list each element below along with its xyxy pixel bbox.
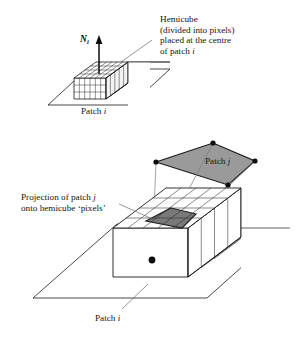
normal-vector-subscript: i: [87, 38, 89, 45]
patch-index-i: i: [104, 106, 107, 116]
patch-index-i: i: [118, 313, 121, 323]
patch-i-bottom-label: Patch i: [95, 313, 120, 324]
hemicube-label-line4: of patch i: [160, 46, 195, 56]
upper-leader-line: [121, 40, 152, 62]
hemicube-label-line3: placed at the centre: [160, 35, 231, 45]
normal-vector-label: Ni: [80, 34, 89, 45]
hemicube-label-line2: (divided into pixels): [160, 25, 235, 35]
lower-diagram: [33, 140, 304, 309]
hemicube-label-line1: Hemicube: [160, 14, 198, 24]
patch-index-i: i: [192, 46, 195, 56]
hemicube-radiosity-diagram: [0, 0, 304, 337]
patch-i-top-label: Patch i: [81, 106, 106, 117]
upper-diagram: [48, 35, 170, 110]
projection-label-line2: onto hemicube ‘pixels’: [21, 203, 106, 213]
lower-hemicube-front-face: [113, 228, 188, 277]
projection-label-line1: Projection of patch j: [21, 192, 96, 202]
patch-index-j: j: [228, 156, 231, 166]
patch-index-j: j: [93, 192, 96, 202]
hemicube-centre-point: [149, 257, 156, 264]
hemicube-label: Hemicube (divided into pixels) placed at…: [160, 14, 235, 56]
patch-j-label: Patch j: [205, 156, 230, 167]
projection-label: Projection of patch j onto hemicube ‘pix…: [21, 192, 106, 213]
